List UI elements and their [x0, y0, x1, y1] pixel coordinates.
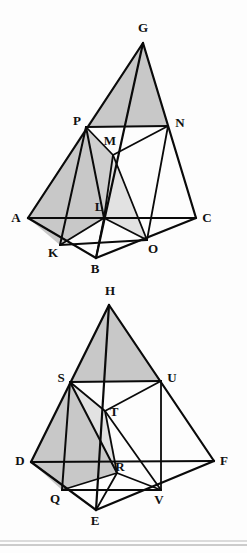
vertex-label-Q: Q	[50, 491, 60, 506]
vertex-label-P: P	[73, 113, 81, 128]
vertex-label-C: C	[202, 210, 211, 225]
vertex-label-E: E	[91, 513, 100, 528]
vertex-label-D: D	[15, 453, 24, 468]
vertex-label-B: B	[91, 261, 100, 276]
vertex-label-U: U	[167, 370, 177, 385]
edge-G-C	[143, 43, 196, 218]
vertex-label-V: V	[154, 492, 164, 507]
vertex-label-M: M	[104, 133, 116, 148]
footer-rules-layer	[0, 541, 247, 545]
edge-S-U	[70, 381, 161, 382]
vertex-label-A: A	[11, 210, 21, 225]
vertex-label-F: F	[220, 453, 228, 468]
edge-L-B	[96, 218, 104, 258]
figure-sheet: GPNMALCKOBHSUTDRFQVE	[0, 0, 247, 553]
vertex-label-O: O	[148, 241, 158, 256]
diagram-canvas: GPNMALCKOBHSUTDRFQVE	[0, 0, 247, 553]
vertex-label-R: R	[115, 459, 125, 474]
vertex-label-T: T	[110, 404, 119, 419]
edge-P-N	[86, 126, 168, 127]
vertex-label-N: N	[175, 115, 185, 130]
vertex-label-L: L	[95, 199, 104, 214]
vertex-label-S: S	[57, 370, 64, 385]
vertex-label-G: G	[138, 20, 148, 35]
vertex-label-K: K	[48, 245, 59, 260]
edge-N-O	[147, 126, 168, 240]
vertex-label-H: H	[105, 283, 115, 298]
